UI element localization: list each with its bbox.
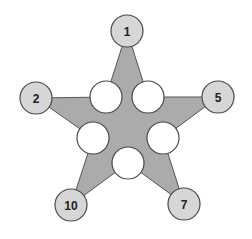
slot-circle[interactable] xyxy=(77,122,109,154)
slot-circle[interactable] xyxy=(112,147,144,179)
node-left: 2 xyxy=(20,82,52,114)
node-number-label: 10 xyxy=(64,199,78,213)
node-bottom-right: 7 xyxy=(168,188,200,220)
star-diagram: 157102 xyxy=(0,0,252,239)
node-number-label: 2 xyxy=(33,92,40,106)
slot-circle[interactable] xyxy=(90,81,122,113)
empty-slot-inner-top-right[interactable] xyxy=(132,81,164,113)
node-right: 5 xyxy=(202,81,234,113)
empty-slot-inner-mid-right[interactable] xyxy=(147,122,179,154)
slot-circle[interactable] xyxy=(132,81,164,113)
empty-slot-inner-mid-left[interactable] xyxy=(77,122,109,154)
node-number-label: 1 xyxy=(124,25,131,39)
node-top: 1 xyxy=(111,15,143,47)
node-number-label: 7 xyxy=(181,198,188,212)
node-number-label: 5 xyxy=(215,91,222,105)
empty-slot-inner-bottom[interactable] xyxy=(112,147,144,179)
node-bottom-left: 10 xyxy=(55,189,87,221)
empty-slot-inner-top-left[interactable] xyxy=(90,81,122,113)
slot-circle[interactable] xyxy=(147,122,179,154)
